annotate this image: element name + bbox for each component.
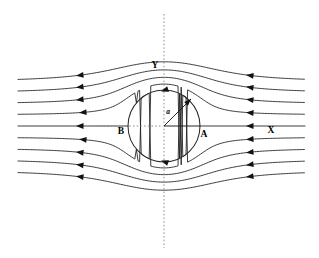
flow-arrowhead-right — [246, 123, 254, 129]
flow-diagram: Y X A B a — [0, 0, 319, 258]
label-point-b: B — [118, 126, 125, 136]
streamline — [18, 84, 304, 159]
flow-arrowhead-left — [76, 174, 84, 180]
streamline — [18, 161, 304, 182]
flow-arrowhead-bottom-of-cylinder — [161, 160, 169, 165]
flow-arrowhead-left — [76, 123, 84, 129]
streamline — [18, 173, 304, 191]
label-point-a: A — [201, 129, 208, 139]
flow-arrowhead-right — [246, 97, 254, 103]
streamline — [18, 70, 304, 91]
flow-arrowhead-right — [246, 110, 254, 116]
flow-arrowhead-right — [246, 136, 254, 142]
flow-arrowhead-top-of-cylinder — [161, 86, 169, 91]
label-y-axis: Y — [152, 60, 159, 70]
flow-arrowhead-right — [246, 161, 254, 167]
flow-arrowhead-left — [76, 72, 84, 78]
flow-arrowhead-left — [76, 84, 84, 90]
label-x-axis: X — [268, 125, 275, 135]
flow-arrowhead-left — [76, 162, 84, 168]
figure-canvas: Y X A B a — [0, 0, 319, 258]
streamline — [18, 93, 304, 168]
label-radius-a: a — [166, 107, 170, 116]
flow-arrowhead-right — [246, 149, 254, 155]
flow-arrowhead-left — [79, 137, 87, 143]
flow-arrowhead-right — [246, 85, 254, 91]
streamline — [18, 62, 304, 80]
flow-arrowhead-left — [79, 109, 87, 115]
streamlines-group — [18, 62, 305, 190]
flow-arrowhead-left — [76, 150, 84, 156]
flow-arrowhead-right — [246, 173, 254, 179]
flow-arrowhead-left — [76, 96, 84, 102]
flow-arrowhead-right — [246, 73, 254, 79]
